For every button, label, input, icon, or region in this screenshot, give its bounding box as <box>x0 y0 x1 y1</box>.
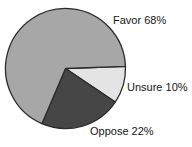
slice-label-favor: Favor 68% <box>113 14 166 26</box>
slice-label-oppose: Oppose 22% <box>90 125 154 137</box>
pie-chart-figure: Favor 68% Unsure 10% Oppose 22% <box>0 0 192 147</box>
slice-label-unsure: Unsure 10% <box>127 81 188 93</box>
